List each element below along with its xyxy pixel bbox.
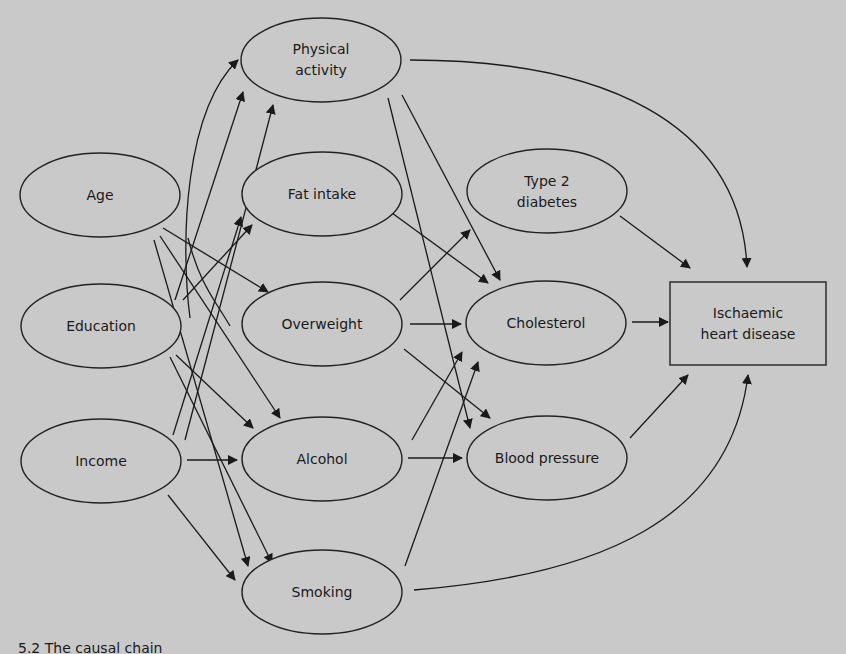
node-label: Type 2 — [523, 173, 570, 189]
figure-caption: 5.2 The causal chain — [18, 640, 162, 654]
causal-diagram: Physical activity Age Fat intake Type 2 … — [0, 0, 846, 654]
node-education: Education — [21, 284, 181, 368]
edge-age-smoking — [154, 240, 248, 566]
node-label: Blood pressure — [495, 450, 599, 466]
node-label: Ischaemic — [713, 305, 783, 321]
node-label: Smoking — [292, 584, 353, 600]
node-ischaemic-heart-disease: Ischaemic heart disease — [670, 282, 826, 365]
node-label: Fat intake — [288, 186, 356, 202]
node-age: Age — [20, 153, 180, 237]
edge-fat-intake-cholesterol — [392, 213, 488, 283]
node-alcohol: Alcohol — [242, 417, 402, 501]
node-blood-pressure: Blood pressure — [467, 416, 627, 500]
edge-income-physical-activity — [185, 105, 273, 440]
node-label: Education — [66, 318, 136, 334]
node-label: activity — [295, 62, 347, 78]
node-fat-intake: Fat intake — [242, 152, 402, 236]
node-label: diabetes — [517, 194, 577, 210]
node-smoking: Smoking — [242, 550, 402, 634]
node-cholesterol: Cholesterol — [466, 281, 626, 365]
edge-diabetes-ihd — [620, 216, 690, 268]
node-label: Cholesterol — [506, 315, 585, 331]
edge-age-curve — [188, 238, 230, 326]
node-label: Age — [86, 187, 113, 203]
node-income: Income — [21, 419, 181, 503]
edge-blood-pressure-ihd — [630, 375, 688, 438]
node-label: Physical — [293, 41, 350, 57]
edge-income-smoking — [168, 495, 235, 580]
node-label: Alcohol — [296, 451, 347, 467]
edge-physical-activity-blood-pressure — [388, 98, 470, 428]
edge-income-fat-intake — [173, 217, 241, 435]
edge-overweight-blood-pressure — [404, 349, 490, 418]
node-physical-activity: Physical activity — [241, 18, 401, 102]
node-label: heart disease — [701, 326, 796, 342]
edge-education-fat-intake — [183, 225, 252, 300]
node-label: Overweight — [282, 316, 363, 332]
edge-age-overweight — [163, 228, 268, 292]
node-overweight: Overweight — [242, 282, 402, 366]
node-label: Income — [75, 453, 127, 469]
node-type2-diabetes: Type 2 diabetes — [467, 149, 627, 233]
edge-education-physical-activity — [175, 92, 243, 300]
